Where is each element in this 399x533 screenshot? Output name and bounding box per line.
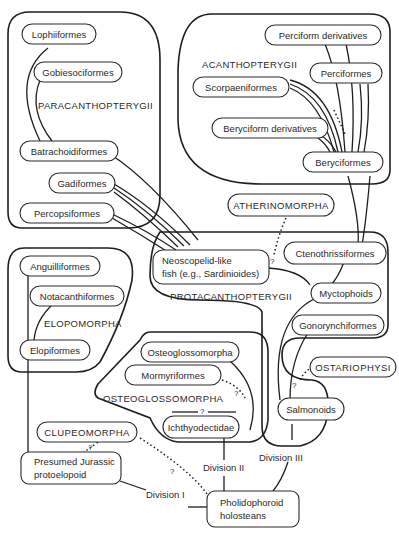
label-elopomorpha: ELOPOMORPHA [44,318,122,329]
node-ichthyodectidae: Ichthyodectidae [163,416,239,438]
svg-text:Salmonoids: Salmonoids [286,404,336,415]
dotted-clupeomorpha-pholidophoroid [140,438,207,494]
edge-perciformes-beryciformes-a [358,84,362,152]
node-pholidophoroid-holosteans: Pholidophoroid holosteans [207,491,299,527]
svg-text:Lophiiformes: Lophiiformes [32,29,87,40]
label-division-1: Division I [146,489,185,500]
node-ostariophysi: OSTARIOPHYSI [310,357,396,377]
svg-text:Batrachoidiformes: Batrachoidiformes [31,146,108,157]
svg-text:Pholidophoroid: Pholidophoroid [220,497,283,508]
node-batrachoidiformes: Batrachoidiformes [20,141,118,161]
atherinomorpha-uncertainty-marker: ? [270,257,275,266]
edge-beryciform-derivatives-beryciformes-b [318,138,330,152]
svg-text:Mormyriformes: Mormyriformes [141,370,205,381]
ichthyodectidae-uncertainty-marker: ? [200,407,205,416]
node-perciform-derivatives: Perciform derivatives [265,25,381,45]
svg-text:Percopsiformes: Percopsiformes [34,208,100,219]
edge-ctenothrissiformes-myctophoids [330,262,344,286]
node-gadiformes: Gadiformes [49,173,115,193]
label-osteoglossomorpha: OSTEOGLOSSOMORPHA [103,393,224,404]
svg-text:ATHERINOMORPHA: ATHERINOMORPHA [233,200,329,211]
svg-text:Perciformes: Perciformes [321,68,372,79]
edge-scorpaeniformes-beryciformes-a [290,80,342,152]
svg-text:Perciform derivatives: Perciform derivatives [279,30,368,41]
node-perciformes: Perciformes [310,63,382,83]
edge-jurassic-division1 [120,481,146,490]
edge-perciform-derivatives-beryciformes-b [346,44,353,152]
edge-perciformes-beryciformes-b [364,84,369,152]
svg-text:Beryciformes: Beryciformes [315,157,371,168]
mormyriformes-uncertainty-marker: ? [234,389,239,398]
svg-text:Elopiformes: Elopiformes [30,345,80,356]
node-lophiiformes: Lophiiformes [22,24,96,44]
svg-text:OSTARIOPHYSI: OSTARIOPHYSI [315,362,390,373]
edge-gadiformes-neoscopelid-a [114,184,190,245]
svg-text:CLUPEOMORPHA: CLUPEOMORPHA [44,427,130,438]
label-division-3: Division III [259,452,303,463]
node-salmonoids: Salmonoids [278,398,344,420]
node-neoscopelid-fish: Neoscopelid-like fish (e.g., Sardinioide… [153,250,269,284]
svg-text:Notacanthiformes: Notacanthiformes [40,291,115,302]
edge-batrachoidiformes-neoscopelid [110,154,198,240]
dotted-scorpaeniformes-ancestor [334,110,346,136]
node-ctenothrissiformes: Ctenothrissiformes [284,242,386,264]
svg-text:Myctophoids: Myctophoids [319,288,373,299]
label-acanthopterygii: ACANTHOPTERYGII [202,59,297,70]
svg-text:Gobiesociformes: Gobiesociformes [42,67,114,78]
node-presumed-jurassic-protoelopoid: Presumed Jurassic protoelopoid [21,452,121,484]
clupeomorpha-uncertainty-marker-2: ? [170,467,175,476]
edge-gadiformes-neoscopelid-b [114,188,184,246]
node-beryciformes: Beryciformes [303,152,383,172]
node-myctophoids: Myctophoids [311,283,381,303]
label-division-2: Division II [203,462,244,473]
node-notacanthiformes: Notacanthiformes [30,286,124,306]
svg-text:Neoscopelid-like: Neoscopelid-like [162,255,232,266]
svg-text:Presumed Jurassic: Presumed Jurassic [34,456,115,467]
label-paracanthopterygii: PARACANTHOPTERYGII [38,100,153,111]
node-atherinomorpha: ATHERINOMORPHA [228,194,334,216]
svg-text:Beryciform derivatives: Beryciform derivatives [223,123,317,134]
svg-text:holosteans: holosteans [220,510,266,521]
svg-text:Ctenothrissiformes: Ctenothrissiformes [295,248,374,259]
ostariophysi-uncertainty-marker: ? [292,381,297,390]
edge-neoscopelid-myctophoids [268,268,310,285]
node-gonorynchiformes: Gonorynchiformes [292,315,384,335]
svg-text:Anguilliformes: Anguilliformes [30,261,90,272]
node-beryciform-derivatives: Beryciform derivatives [212,118,328,138]
node-anguilliformes: Anguilliformes [20,256,100,276]
edge-beryciformes-ctenothrissiformes-b [362,176,370,245]
svg-text:protoelopoid: protoelopoid [34,469,86,480]
label-protacanthopterygii: PROTACANTHOPTERYGII [170,291,292,302]
edge-beryciformes-ctenothrissiformes-a [348,176,358,245]
edge-division3-pholidophoroid [273,462,288,491]
edge-perciform-derivatives-beryciformes-a [325,44,345,152]
node-percopsiformes: Percopsiformes [20,203,114,223]
node-gobiesociformes: Gobiesociformes [34,62,122,82]
node-clupeomorpha: CLUPEOMORPHA [37,422,137,442]
edge-myctophoids-salmonoids [278,298,316,400]
node-scorpaeniformes: Scorpaeniformes [193,77,289,97]
clupeomorpha-uncertainty-marker-1: ? [88,443,93,452]
node-mormyriformes: Mormyriformes [125,365,221,385]
node-elopiformes: Elopiformes [20,340,90,360]
svg-text:Gadiformes: Gadiformes [57,178,106,189]
svg-text:Osteoglossomorpha: Osteoglossomorpha [147,347,233,358]
svg-text:fish (e.g., Sardinioides): fish (e.g., Sardinioides) [162,268,259,279]
teleost-phylogeny-diagram: ? ? ? ? ? ? Lophiiformes Gobiesociformes… [0,0,399,533]
node-osteoglossomorpha: Osteoglossomorpha [141,342,239,362]
svg-text:Gonorynchiformes: Gonorynchiformes [299,320,377,331]
svg-text:Ichthyodectidae: Ichthyodectidae [168,422,235,433]
svg-text:Scorpaeniformes: Scorpaeniformes [205,82,277,93]
